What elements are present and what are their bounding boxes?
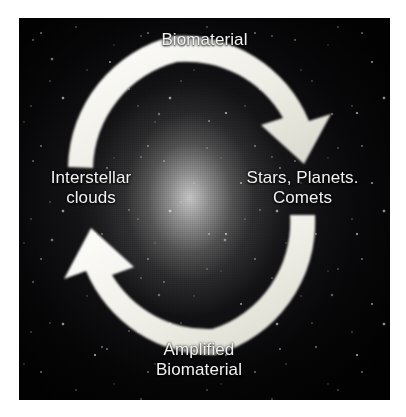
label-amplified-line2: Biomaterial (79, 360, 319, 380)
arrow-clockwise-bottom (64, 215, 315, 355)
label-biomaterial-top: Biomaterial (19, 30, 390, 50)
label-amplified-line1: Amplified (79, 340, 319, 360)
label-stars-line1: Stars, Planets. (215, 168, 390, 188)
galaxy-photograph-plate: Biomaterial Stars, Planets. Comets Inter… (19, 18, 390, 400)
label-stars-planets-comets: Stars, Planets. Comets (215, 168, 390, 208)
label-interstellar-clouds: Interstellar clouds (21, 168, 161, 208)
label-stars-line2: Comets (215, 188, 390, 208)
arrow-clockwise-top (68, 36, 331, 168)
label-interstellar-line2: clouds (21, 188, 161, 208)
cycle-diagram-figure: Biomaterial Stars, Planets. Comets Inter… (0, 0, 406, 417)
label-amplified-biomaterial: Amplified Biomaterial (79, 340, 319, 380)
label-interstellar-line1: Interstellar (21, 168, 161, 188)
